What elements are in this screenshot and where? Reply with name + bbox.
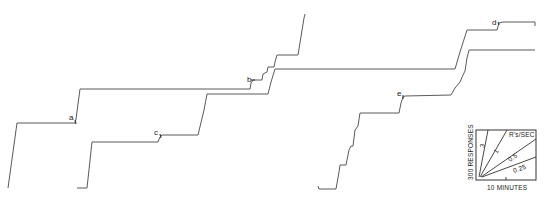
- annotation-e: e: [397, 89, 402, 98]
- reset-marks: [75, 22, 499, 138]
- rate-scale-key: R's/SEC 3 1 0.5 0.25 300 RESPONSES 10 MI…: [467, 124, 536, 191]
- records: [8, 14, 535, 189]
- x-scale-label: 10 MINUTES: [487, 184, 528, 191]
- cumulative-record-1: [8, 14, 305, 188]
- cumulative-record-3: [318, 50, 535, 189]
- annotation-c: c: [154, 128, 158, 137]
- rate-unit-label: R's/SEC: [509, 131, 535, 138]
- y-scale-label: 300 RESPONSES: [467, 124, 474, 180]
- rate-3-label: 3: [478, 143, 486, 149]
- annotation-a: a: [69, 113, 74, 122]
- rate-0.25-label: 0.25: [512, 163, 527, 174]
- rate-line-1: [480, 130, 507, 177]
- rate-line-3: [479, 130, 488, 177]
- annotation-labels: a b c d e: [69, 18, 496, 137]
- rate-0.5-label: 0.5: [507, 151, 519, 162]
- cumulative-record-figure: a b c d e R's/SEC 3 1 0.5 0.25 300 RESPO…: [0, 0, 545, 200]
- annotation-d: d: [492, 18, 496, 27]
